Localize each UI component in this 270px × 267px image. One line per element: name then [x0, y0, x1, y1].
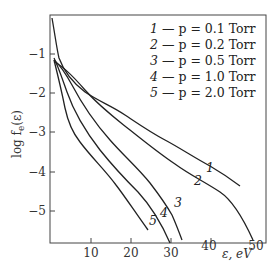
x-tick-label: 40	[201, 239, 216, 253]
y-label-arg: (ε)	[10, 110, 24, 126]
chart-figure: −1 −2 −3 −4 −5 log fe(ε) 10 20 30 40 50 …	[0, 0, 270, 267]
curve-5	[54, 60, 148, 230]
curve-label-4: 4	[159, 205, 168, 220]
legend-item: 5— p = 2.0 Torr	[150, 85, 256, 100]
x-axis: 10 20 30 40 50 ε, eV	[83, 238, 263, 261]
x-tick-label: 30	[163, 246, 178, 260]
y-tick-label: −4	[28, 165, 46, 179]
curve-label-2: 2	[193, 173, 202, 188]
legend-item: 4— p = 1.0 Torr	[149, 69, 256, 84]
y-label-main: log f	[10, 129, 24, 158]
curve-label-5: 5	[149, 213, 157, 228]
y-axis: −1 −2 −3 −4 −5	[28, 47, 55, 218]
x-axis-label: ε, eV	[222, 247, 253, 261]
y-tick-label: −1	[28, 47, 46, 61]
curve-label-3: 3	[174, 195, 182, 210]
legend-item: 3— p = 0.5 Torr	[150, 53, 256, 68]
legend-item: 2— p = 0.2 Torr	[149, 37, 256, 52]
y-tick-label: −5	[28, 204, 46, 218]
legend: 1— p = 0.1 Torr 2— p = 0.2 Torr 3— p = 0…	[149, 21, 256, 100]
curve-label-1: 1	[206, 160, 214, 175]
legend-item: 1— p = 0.1 Torr	[150, 21, 256, 36]
svg-text:log fe(ε): log fe(ε)	[10, 110, 26, 158]
y-axis-label: log fe(ε)	[10, 110, 26, 158]
x-tick-label: 10	[83, 246, 98, 260]
x-tick-label: 20	[123, 246, 138, 260]
y-tick-label: −3	[28, 125, 46, 139]
y-tick-label: −2	[28, 86, 46, 100]
